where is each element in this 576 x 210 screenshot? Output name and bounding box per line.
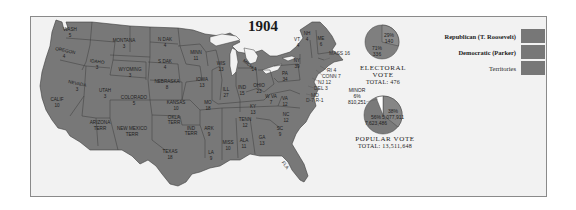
legend-label-republican: Republican (T. Roosevelt) xyxy=(444,33,516,40)
callout-md-split: D-7 R-1 xyxy=(306,97,324,103)
state-label-ill: ILL xyxy=(223,87,230,92)
state-label-minn: MINN xyxy=(190,50,202,55)
state-ev-arizona: TERR xyxy=(94,126,107,131)
state-ev-new-mexico: TERR xyxy=(126,132,139,137)
ev-dem-value: 140 xyxy=(385,38,394,44)
electoral-vote-total: TOTAL: 476 xyxy=(351,79,415,86)
popular-vote-heading: POPULAR VOTE xyxy=(350,136,420,143)
state-label-ga: GA xyxy=(259,135,267,140)
state-label-texas: TEXAS xyxy=(162,149,177,154)
state-ev-va: 12 xyxy=(282,102,288,107)
state-label-me: ME xyxy=(318,36,325,41)
state-label-nc: NC xyxy=(283,112,290,117)
state-label-pa: PA xyxy=(282,71,289,76)
state-label-new-mexico: NEW MEXICO xyxy=(117,126,148,131)
state-ev-w-va: 7 xyxy=(270,100,273,105)
state-ev-ky: 13 xyxy=(250,110,256,115)
map-title: 1904 xyxy=(248,18,278,35)
state-ev-idaho: 3 xyxy=(96,65,99,70)
state-ev-mo: 18 xyxy=(205,106,211,111)
electoral-vote-caption: ELECTORAL VOTE TOTAL: 476 xyxy=(351,65,415,86)
state-label-ala: ALA xyxy=(240,138,250,143)
state-label-calif: CALIF xyxy=(50,97,63,102)
popular-vote-caption: POPULAR VOTE TOTAL: 13,511,648 xyxy=(350,136,420,150)
state-label-iowa: IOWA xyxy=(196,77,209,82)
electoral-vote-heading: ELECTORAL VOTE xyxy=(351,65,415,79)
state-ev-nh: 4 xyxy=(306,37,309,42)
state-ev-vt: 4 xyxy=(297,43,300,48)
legend-item-republican: Republican (T. Roosevelt) xyxy=(444,30,545,42)
state-label-vt: VT xyxy=(294,37,300,42)
state-label-ind: IND xyxy=(238,85,247,90)
state-ev-ind: 15 xyxy=(239,91,245,96)
legend-swatch-democratic xyxy=(521,45,545,59)
state-label-s-dak: S DAK xyxy=(158,59,173,64)
state-label-wis: WIS xyxy=(217,61,226,66)
state-label-kansas: KANSAS xyxy=(167,100,186,105)
state-ev-montana: 3 xyxy=(123,44,126,49)
state-label-utah: UTAH xyxy=(99,88,111,93)
state-label-ny: NY xyxy=(294,58,300,63)
popular-vote-pie: 38% 5,077,911 56% 7,623,486 MINOR 6% 810… xyxy=(348,87,404,134)
callout-del: DEL 3 xyxy=(314,85,328,91)
state-label-ky: KY xyxy=(250,104,256,109)
state-label-arizona: ARIZONA xyxy=(90,120,111,125)
state-ev-ala: 11 xyxy=(242,144,247,149)
state-ev-minn: 11 xyxy=(194,56,199,61)
state-label-w-va: W VA xyxy=(265,94,277,99)
ev-rep-value: 336 xyxy=(373,51,382,57)
callout-mass: MASS 16 xyxy=(329,50,350,56)
state-label-tenn: TENN xyxy=(239,117,252,122)
state-label-nh: NH xyxy=(304,31,311,36)
state-label-colorado: COLORADO xyxy=(121,95,148,100)
state-label-mo: MO xyxy=(204,100,212,105)
state-ev-wis: 13 xyxy=(218,67,224,72)
legend-item-territories: Territories xyxy=(489,62,545,74)
state-ev-wash: 5 xyxy=(69,33,72,38)
state-ev-ohio: 23 xyxy=(256,89,262,94)
state-ev-nebraska: 8 xyxy=(166,85,169,90)
electoral-vote-pie: 29% 140 71% 336 xyxy=(365,25,399,59)
state-ev-kansas: 10 xyxy=(173,106,179,111)
state-label-nebraska: NEBRASKA xyxy=(154,79,180,84)
state-ev-calif: 10 xyxy=(54,103,60,108)
state-ev-okla: TERR xyxy=(168,120,181,125)
state-ev-nevada: 3 xyxy=(76,87,79,92)
state-ev-me: 6 xyxy=(320,42,323,47)
state-label-n-dak: N DAK xyxy=(158,37,173,42)
state-ev-pa: 34 xyxy=(282,77,288,82)
state-label-wyoming: WYOMING xyxy=(119,67,142,72)
state-ev-ny: 39 xyxy=(294,64,300,69)
pv-minor-value: 810,251 xyxy=(348,99,366,105)
state-ev-s-dak: 4 xyxy=(164,65,167,70)
state-ev-oregon: 4 xyxy=(63,54,66,59)
state-label-ark: ARK xyxy=(204,126,214,131)
state-ev-wyoming: 3 xyxy=(129,73,132,78)
state-label-la: LA xyxy=(208,150,215,155)
state-label-montana: MONTANA xyxy=(113,38,137,43)
state-label-sc: SC xyxy=(277,126,284,131)
legend-swatch-territories xyxy=(521,61,545,75)
popular-vote-total: TOTAL: 13,511,648 xyxy=(350,143,420,150)
state-ev-ga: 13 xyxy=(259,141,265,146)
state-label-va: VA xyxy=(282,96,289,101)
legend-label-democratic: Democratic (Parker) xyxy=(458,49,516,56)
state-ev-la: 9 xyxy=(210,156,213,161)
legend-swatch-republican xyxy=(521,29,545,43)
state-ev-ill: 27 xyxy=(223,93,229,98)
legend-item-democratic: Democratic (Parker) xyxy=(458,46,545,58)
state-ev-ind-terr: TERR xyxy=(185,131,198,136)
state-ev-tenn: 12 xyxy=(242,123,248,128)
state-ev-utah: 3 xyxy=(104,94,107,99)
state-ev-miss: 10 xyxy=(225,146,231,151)
state-label-ohio: OHIO xyxy=(253,83,265,88)
state-ev-mich: 14 xyxy=(251,67,257,72)
state-ev-texas: 18 xyxy=(167,155,173,160)
legend-label-territories: Territories xyxy=(489,65,516,72)
state-ev-n-dak: 4 xyxy=(164,43,167,48)
state-ev-sc: 9 xyxy=(279,132,282,137)
state-ev-colorado: 5 xyxy=(133,101,136,106)
state-ev-iowa: 13 xyxy=(199,83,205,88)
pv-rep-value: 7,623,486 xyxy=(365,120,387,126)
state-label-wash: WASH xyxy=(63,27,77,32)
